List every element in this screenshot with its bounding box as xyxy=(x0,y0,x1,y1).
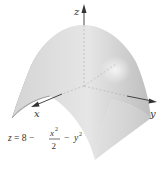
x-axis-label: x xyxy=(34,108,40,119)
surface-highlight xyxy=(88,52,132,92)
y-axis-arrowhead xyxy=(149,99,158,104)
y-axis-label: y xyxy=(149,108,156,119)
z-axis-arrowhead xyxy=(82,4,87,13)
equation-frac-denominator: 2 xyxy=(52,141,57,151)
equation-frac-numerator-exp: 2 xyxy=(55,126,58,132)
equation-minus: − xyxy=(64,133,69,143)
equation-label: z = 8 − x 2 2 − y 2 xyxy=(7,126,82,151)
z-axis-label: z xyxy=(73,6,80,17)
paraboloid-figure: z x y z = 8 − x 2 2 − y 2 xyxy=(0,0,166,169)
equation-frac-numerator: x xyxy=(49,128,54,138)
equation-y-exp: 2 xyxy=(79,131,82,137)
equation-lhs: z = 8 − xyxy=(7,133,34,143)
